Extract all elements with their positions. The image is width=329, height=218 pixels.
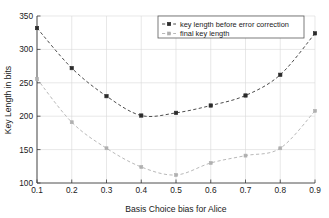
x-axis-ticks: 0.10.20.30.40.50.60.70.80.9 bbox=[31, 180, 321, 196]
data-point-marker bbox=[314, 109, 317, 112]
data-point-marker bbox=[209, 161, 212, 164]
line-chart: 100150200250300350 0.10.20.30.40.50.60.7… bbox=[0, 0, 329, 218]
data-point-marker bbox=[105, 94, 108, 97]
y-tick-label: 300 bbox=[19, 44, 33, 54]
data-point-marker bbox=[105, 147, 108, 150]
legend-marker-sample-1 bbox=[167, 22, 170, 25]
legend-label-1: key length before error correction bbox=[180, 20, 289, 29]
legend-marker-sample-2 bbox=[168, 32, 171, 35]
data-point-marker bbox=[279, 147, 282, 150]
x-tick-label: 0.3 bbox=[101, 185, 113, 195]
data-point-marker bbox=[209, 104, 212, 107]
x-tick-label: 0.1 bbox=[31, 185, 43, 195]
x-tick-label: 0.9 bbox=[309, 185, 321, 195]
gridlines bbox=[37, 16, 315, 183]
data-point-marker bbox=[244, 94, 247, 97]
data-point-marker bbox=[70, 66, 73, 69]
chart-legend: key length before error correctionfinal … bbox=[158, 16, 304, 38]
y-tick-label: 200 bbox=[19, 111, 33, 121]
data-point-marker bbox=[70, 121, 73, 124]
data-point-marker bbox=[140, 114, 143, 117]
x-tick-label: 0.6 bbox=[205, 185, 217, 195]
data-point-marker bbox=[35, 26, 38, 29]
y-tick-label: 250 bbox=[19, 78, 33, 88]
x-tick-label: 0.8 bbox=[274, 185, 286, 195]
x-tick-label: 0.7 bbox=[240, 185, 252, 195]
y-axis-title: Key Length in bits bbox=[3, 66, 13, 134]
y-tick-label: 150 bbox=[19, 145, 33, 155]
data-point-marker bbox=[279, 73, 282, 76]
x-axis-title: Basis Choice bias for Alice bbox=[125, 204, 226, 214]
chart-figure: 100150200250300350 0.10.20.30.40.50.60.7… bbox=[0, 0, 329, 218]
x-tick-label: 0.4 bbox=[135, 185, 147, 195]
x-tick-label: 0.2 bbox=[66, 185, 78, 195]
data-point-marker bbox=[175, 173, 178, 176]
y-tick-label: 350 bbox=[19, 11, 33, 21]
x-tick-label: 0.5 bbox=[170, 185, 182, 195]
legend-label-2: final key length bbox=[180, 29, 229, 38]
data-point-marker bbox=[174, 111, 177, 114]
data-point-marker bbox=[36, 77, 39, 80]
data-point-marker bbox=[140, 165, 143, 168]
data-point-marker bbox=[244, 154, 247, 157]
data-point-marker bbox=[313, 32, 316, 35]
